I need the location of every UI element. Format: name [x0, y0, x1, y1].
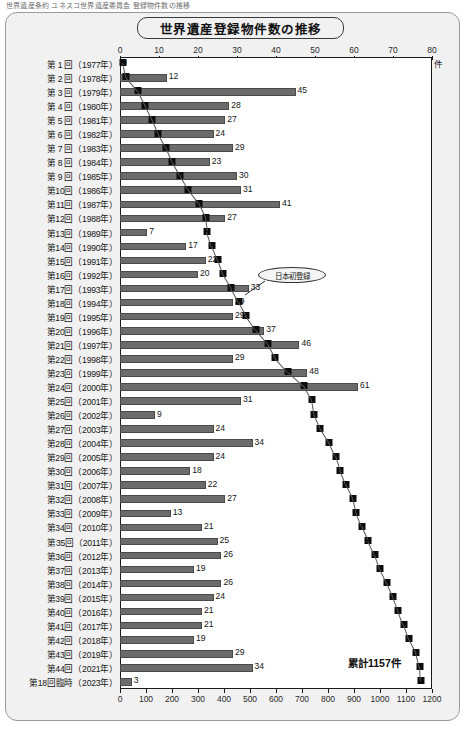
- row-category-label: 第42回（2018年）: [47, 634, 118, 646]
- row-category-label: 第37回（2013年）: [47, 564, 118, 576]
- bar-value-label: 17: [188, 240, 198, 250]
- row-category-label: 第11回（1987年）: [47, 198, 118, 210]
- bar-value-label: 27: [227, 212, 237, 222]
- axis-top-tick-label: 70: [388, 45, 397, 55]
- bar: [120, 608, 202, 616]
- bar: [120, 144, 233, 152]
- bar: [120, 341, 299, 349]
- axis-bottom-tick-label: 1000: [371, 694, 390, 704]
- row-category-label: 第43回（2019年）: [47, 648, 118, 660]
- axis-bottom-tick-label: 300: [191, 694, 205, 704]
- axis-bottom-tick-mark: [354, 689, 355, 693]
- bar-value-label: 45: [298, 85, 308, 95]
- row-category-label: 第 7 回（1983年）: [47, 142, 118, 154]
- bar: [120, 664, 253, 672]
- axis-bottom-tick-label: 700: [295, 694, 309, 704]
- row-category-label: 第24回（2000年）: [47, 381, 118, 393]
- row-category-label: 第38回（2014年）: [47, 578, 118, 590]
- bar: [120, 102, 229, 110]
- axis-bottom-tick-mark: [380, 689, 381, 693]
- bar: [120, 271, 198, 279]
- chart-row: 第41回（2017年）21: [0, 619, 467, 633]
- axis-bottom-tick-label: 1200: [423, 694, 442, 704]
- bar: [120, 88, 296, 96]
- bar-value-label: 34: [255, 437, 265, 447]
- bar-value-label: 21: [204, 605, 214, 615]
- chart-row: 第 5 回（1981年）27: [0, 113, 467, 127]
- bar-value-label: 13: [173, 507, 183, 517]
- bar-value-label: 7: [149, 226, 154, 236]
- axis-top-tick-label: 30: [232, 45, 241, 55]
- bar-value-label: 29: [235, 142, 245, 152]
- row-category-label: 第14回（1990年）: [47, 241, 118, 253]
- bar-value-label: 37: [266, 324, 276, 334]
- bar: [120, 257, 206, 265]
- bar-value-label: 27: [227, 114, 237, 124]
- chart-row: 第 6 回（1982年）24: [0, 127, 467, 141]
- row-category-label: 第28回（2004年）: [47, 437, 118, 449]
- chart-row: 第33回（2009年）13: [0, 506, 467, 520]
- axis-bottom-tick-label: 900: [347, 694, 361, 704]
- bar-value-label: 34: [255, 661, 265, 671]
- row-category-label: 第35回（2011年）: [47, 536, 118, 548]
- chart-row: 第21回（1997年）46: [0, 338, 467, 352]
- chart-row: 第16回（1992年）20: [0, 268, 467, 282]
- axis-top-tick-label: 40: [271, 45, 280, 55]
- bar-value-label: 21: [204, 521, 214, 531]
- row-category-label: 第27回（2003年）: [47, 423, 118, 435]
- axis-bottom-tick-mark: [432, 689, 433, 693]
- row-category-label: 第 9 回（1985年）: [47, 170, 118, 182]
- axis-top-tick-label: 10: [154, 45, 163, 55]
- bar: [120, 594, 214, 602]
- total-label: 累計1157件: [348, 655, 401, 670]
- bar: [120, 552, 221, 560]
- bar: [120, 130, 214, 138]
- row-category-label: 第15回（1991年）: [47, 255, 118, 267]
- row-category-label: 第23回（1999年）: [47, 367, 118, 379]
- bar: [120, 369, 307, 377]
- row-category-label: 第36回（2012年）: [47, 550, 118, 562]
- chart-row: 第38回（2014年）26: [0, 577, 467, 591]
- row-category-label: 第19回（1995年）: [47, 311, 118, 323]
- row-category-label: 第26回（2002年）: [47, 409, 118, 421]
- bar: [120, 355, 233, 363]
- bar-value-label: 24: [216, 451, 226, 461]
- chart-row: 第18回（1994年）29: [0, 296, 467, 310]
- bar: [120, 453, 214, 461]
- axis-top-tick-label: 20: [193, 45, 202, 55]
- bar: [120, 439, 253, 447]
- bar: [120, 425, 214, 433]
- row-category-label: 第 8 回（1984年）: [47, 156, 118, 168]
- bar: [120, 495, 225, 503]
- chart-row: 第42回（2018年）19: [0, 633, 467, 647]
- axis-top: 01020304050607080: [120, 45, 432, 57]
- bar-value-label: 19: [196, 563, 206, 573]
- bar-value-label: 46: [301, 338, 311, 348]
- chart-row: 第37回（2013年）19: [0, 563, 467, 577]
- bar: [120, 158, 210, 166]
- top-caption: 世界遺産条約 ユネスコ世界遺産委員会 登録物件数の推移: [6, 0, 336, 11]
- axis-top-tick-label: 0: [118, 45, 123, 55]
- axis-bottom-tick-mark: [276, 689, 277, 693]
- axis-bottom-tick-mark: [120, 689, 121, 693]
- row-category-label: 第40回（2016年）: [47, 606, 118, 618]
- row-category-label: 第 1 回（1977年）: [47, 58, 118, 70]
- row-category-label: 第12回（1988年）: [47, 212, 118, 224]
- row-category-label: 第18回（1994年）: [47, 297, 118, 309]
- axis-bottom-tick-mark: [406, 689, 407, 693]
- row-category-label: 第44回（2021年）: [47, 662, 118, 674]
- chart-row: 第 2 回（1978年）12: [0, 71, 467, 85]
- chart-row: 第30回（2006年）18: [0, 464, 467, 478]
- axis-bottom-tick-mark: [146, 689, 147, 693]
- chart-row: 第10回（1986年）31: [0, 183, 467, 197]
- row-category-label: 第17回（1993年）: [47, 283, 118, 295]
- chart-row: 第11回（1987年）41: [0, 197, 467, 211]
- chart-row: 第26回（2002年）9: [0, 408, 467, 422]
- axis-bottom-tick-mark: [198, 689, 199, 693]
- chart-row: 第34回（2010年）21: [0, 520, 467, 534]
- axis-bottom-tick-label: 500: [243, 694, 257, 704]
- bar-value-label: 41: [282, 198, 292, 208]
- chart-row: 第35回（2011年）25: [0, 535, 467, 549]
- bar-value-label: 26: [223, 577, 233, 587]
- bar-value-label: 26: [223, 549, 233, 559]
